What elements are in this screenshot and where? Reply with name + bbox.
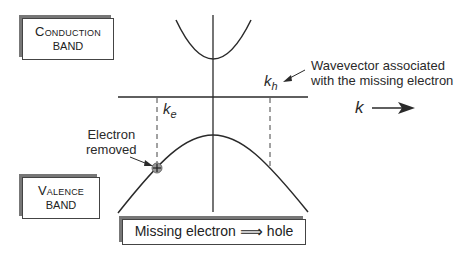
- valence-band-label-line1: Valence: [38, 183, 84, 199]
- kh-label: kh: [264, 72, 278, 93]
- electron-removed-arrowhead-icon: [144, 160, 153, 166]
- ke-label: ke: [163, 100, 177, 121]
- wavevector-arrowhead-icon: [283, 75, 292, 82]
- electron-removed-label: Electron removed: [86, 128, 137, 158]
- missing-electron-hole-box: Missing electron ⟹ hole: [122, 219, 306, 245]
- conduction-band-label-line2: band: [53, 40, 84, 54]
- double-arrow-icon: ⟹: [240, 222, 263, 242]
- summary-left-text: Missing electron: [135, 223, 236, 241]
- valence-band-box: Valence band: [22, 177, 100, 219]
- conduction-band-box: Conduction band: [22, 18, 114, 60]
- k-axis-label: k: [355, 98, 364, 118]
- summary-right-text: hole: [267, 223, 293, 241]
- conduction-band-label-line1: Conduction: [35, 24, 101, 40]
- valence-band-label-line2: band: [46, 199, 77, 213]
- wavevector-annotation: Wavevector associated with the missing e…: [311, 59, 453, 89]
